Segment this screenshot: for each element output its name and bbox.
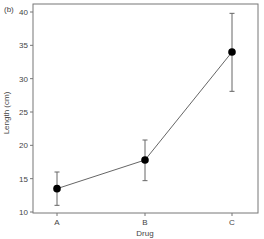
y-axis: 10152025303540 [19, 8, 33, 217]
chart: (b) 10152025303540 ABC Length (cm) Drug [0, 0, 264, 239]
data-point-marker [228, 48, 236, 56]
x-tick-label: A [54, 218, 60, 227]
y-tick-label: 40 [19, 8, 28, 17]
data-series [53, 13, 236, 205]
y-tick-label: 20 [19, 141, 28, 150]
y-tick-label: 35 [19, 41, 28, 50]
x-axis: ABC [54, 213, 235, 227]
panel-label: (b) [4, 5, 14, 14]
plot-frame [33, 4, 258, 213]
y-tick-label: 30 [19, 75, 28, 84]
data-point-marker [53, 185, 61, 193]
x-axis-title: Drug [136, 229, 153, 238]
y-tick-label: 10 [19, 208, 28, 217]
y-tick-label: 25 [19, 108, 28, 117]
x-tick-label: C [229, 218, 235, 227]
y-tick-label: 15 [19, 175, 28, 184]
y-axis-title: Length (cm) [2, 91, 11, 134]
data-point-marker [141, 156, 149, 164]
x-tick-label: B [142, 218, 147, 227]
